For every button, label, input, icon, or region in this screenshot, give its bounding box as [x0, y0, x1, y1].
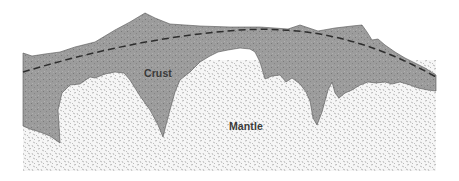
mantle-label: Mantle — [229, 120, 263, 132]
crust-label: Crust — [144, 67, 172, 79]
crust-mantle-diagram: Crust Mantle — [0, 0, 459, 181]
cross-section-svg — [0, 0, 459, 181]
